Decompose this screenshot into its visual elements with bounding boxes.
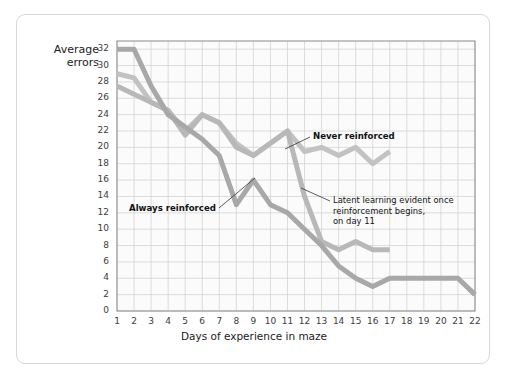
series-label-never-reinforced: Never reinforced [313, 131, 395, 141]
annotation-line: on day 11 [333, 216, 454, 227]
y-tick-label: 10 [83, 223, 109, 233]
x-tick-label: 10 [262, 316, 278, 326]
y-tick-label: 28 [83, 76, 109, 86]
x-tick-label: 19 [416, 316, 432, 326]
y-tick-label: 30 [83, 60, 109, 70]
x-tick-label: 21 [450, 316, 466, 326]
x-tick-label: 12 [297, 316, 313, 326]
x-tick-label: 2 [126, 316, 142, 326]
y-tick-label: 14 [83, 190, 109, 200]
x-tick-label: 4 [160, 316, 176, 326]
y-tick-label: 6 [83, 256, 109, 266]
y-tick-label: 0 [83, 305, 109, 315]
y-tick-label: 24 [83, 109, 109, 119]
x-tick-label: 15 [348, 316, 364, 326]
x-axis-title: Days of experience in maze [17, 330, 491, 342]
x-tick-label: 1 [109, 316, 125, 326]
x-tick-label: 16 [365, 316, 381, 326]
grid-lines [117, 41, 475, 311]
y-tick-label: 32 [83, 43, 109, 53]
x-tick-label: 5 [177, 316, 193, 326]
y-tick-label: 22 [83, 125, 109, 135]
x-tick-label: 7 [211, 316, 227, 326]
y-tick-label: 4 [83, 272, 109, 282]
annotation-line: Latent learning evident once [333, 195, 454, 206]
x-tick-label: 6 [194, 316, 210, 326]
x-tick-label: 17 [382, 316, 398, 326]
y-tick-label: 12 [83, 207, 109, 217]
x-tick-label: 18 [399, 316, 415, 326]
y-tick-label: 26 [83, 92, 109, 102]
annotation-latent-learning: Latent learning evident oncereinforcemen… [333, 195, 454, 227]
y-tick-label: 2 [83, 289, 109, 299]
y-tick-label: 20 [83, 141, 109, 151]
x-tick-label: 9 [245, 316, 261, 326]
x-tick-label: 13 [314, 316, 330, 326]
plot-area-background [117, 41, 475, 311]
x-tick-label: 8 [228, 316, 244, 326]
x-tick-label: 20 [433, 316, 449, 326]
y-tick-label: 16 [83, 174, 109, 184]
y-tick-label: 8 [83, 240, 109, 250]
x-tick-label: 11 [279, 316, 295, 326]
figure-card: Average errors Days of experience in maz… [16, 14, 490, 364]
x-tick-label: 3 [143, 316, 159, 326]
y-tick-label: 18 [83, 158, 109, 168]
series-label-always-reinforced: Always reinforced [129, 203, 216, 213]
annotation-line: reinforcement begins, [333, 206, 454, 217]
x-tick-label: 14 [331, 316, 347, 326]
x-tick-label: 22 [467, 316, 483, 326]
